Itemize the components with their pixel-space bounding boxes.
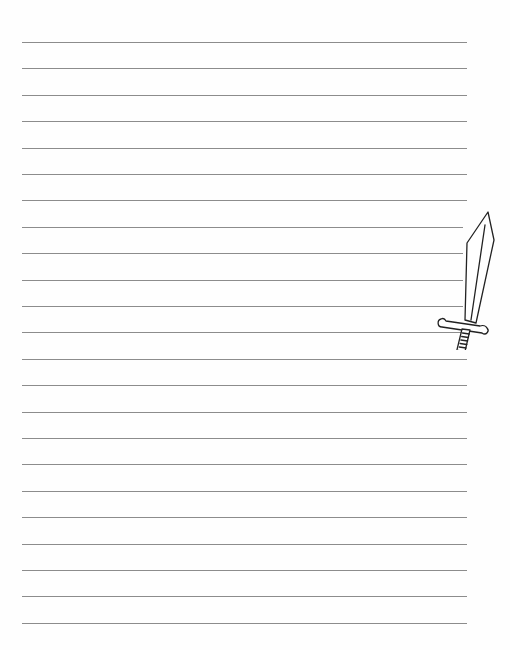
ruled-line <box>22 438 467 439</box>
ruled-line <box>22 517 467 518</box>
ruled-line <box>22 412 467 413</box>
ruled-line <box>22 570 467 571</box>
ruled-line <box>22 200 467 201</box>
ruled-line <box>22 464 467 465</box>
ruled-line <box>22 253 463 254</box>
ruled-line <box>22 280 463 281</box>
ruled-line <box>22 623 467 624</box>
ruled-line <box>22 68 467 69</box>
sword-icon <box>430 205 510 350</box>
ruled-line <box>22 121 467 122</box>
ruled-line <box>22 42 467 43</box>
lined-paper-page <box>0 0 510 650</box>
ruled-line <box>22 491 467 492</box>
ruled-line <box>22 95 467 96</box>
ruled-line <box>22 544 467 545</box>
ruled-line <box>22 596 467 597</box>
ruled-line <box>22 227 463 228</box>
ruled-line <box>22 332 463 333</box>
ruled-line <box>22 148 467 149</box>
ruled-line <box>22 385 467 386</box>
ruled-line <box>22 359 467 360</box>
ruled-line <box>22 174 467 175</box>
ruled-line <box>22 306 463 307</box>
